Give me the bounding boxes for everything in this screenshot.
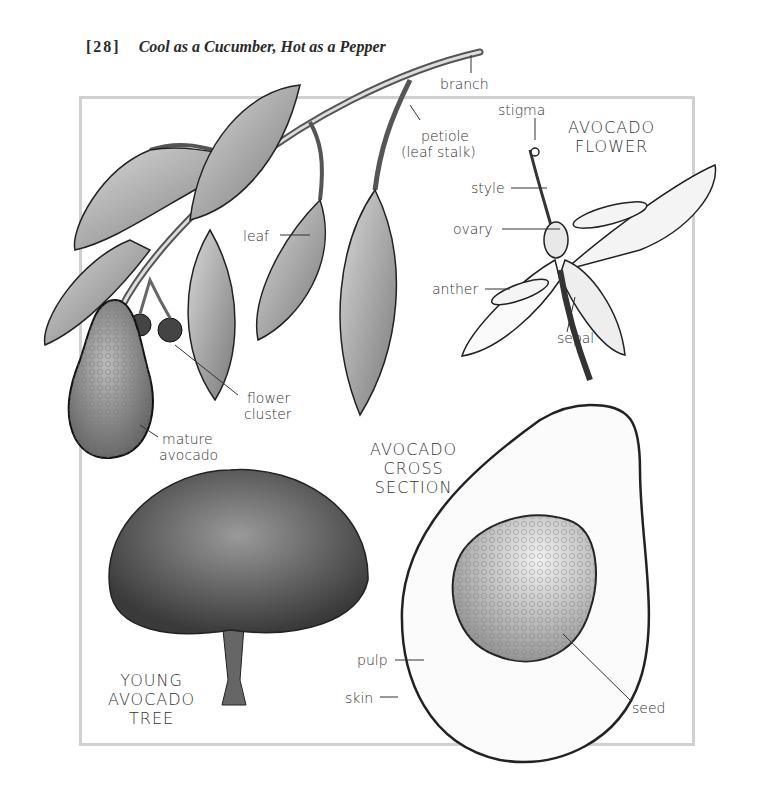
label-leaf-stalk: (leaf stalk) [401,144,476,160]
label-flower-cluster-2: cluster [244,406,292,422]
label-pulp: pulp [357,652,388,668]
label-branch: branch [440,76,489,92]
label-sepal: sepal [557,330,594,346]
label-flower-cluster-1: flower [247,390,290,406]
label-seed: seed [632,700,665,716]
label-leaf: leaf [243,228,269,244]
title-avocado-cross-section: AVOCADO CROSS SECTION [370,440,457,497]
label-petiole: petiole [421,128,469,144]
title-young-avocado-tree: YOUNG AVOCADO TREE [108,671,195,728]
label-skin: skin [345,690,373,706]
label-stigma: stigma [498,102,545,118]
title-avocado-flower: AVOCADO FLOWER [568,118,655,156]
label-style: style [471,180,505,196]
label-ovary: ovary [453,221,492,237]
label-mature-2: avocado [159,447,218,463]
label-mature-1: mature [162,431,213,447]
label-anther: anther [432,281,478,297]
young-avocado-tree-art [109,470,368,705]
